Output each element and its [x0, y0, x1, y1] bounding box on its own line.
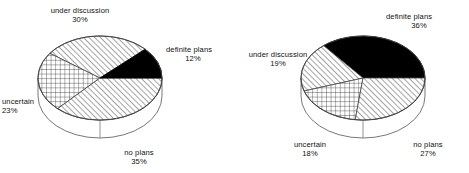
label-uncertain-right: uncertain 18%: [280, 140, 340, 159]
label-uncertain-left: uncertain 23%: [2, 97, 58, 116]
figure-canvas: under discussion 30% definite plans 12% …: [0, 0, 469, 173]
label-no-plans-left: no plans 35%: [104, 148, 174, 167]
pie-chart-left: under discussion 30% definite plans 12% …: [0, 0, 235, 173]
pie-right-slices: [301, 36, 425, 120]
pie-chart-right: definite plans 36% under discussion 19% …: [234, 0, 469, 173]
label-definite-plans-right: definite plans 36%: [386, 12, 468, 31]
label-under-discussion-right: under discussion 19%: [236, 50, 320, 69]
label-under-discussion-left: under discussion 30%: [20, 6, 140, 25]
label-no-plans-right: no plans 27%: [400, 140, 456, 159]
label-definite-plans-left: definite plans 12%: [166, 45, 234, 64]
